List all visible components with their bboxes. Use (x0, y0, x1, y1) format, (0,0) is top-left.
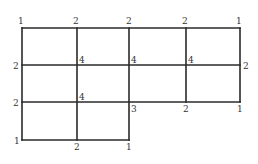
vertex-label: 2 (182, 17, 188, 26)
vertex-label: 2 (73, 17, 79, 26)
vertex-label: 3 (131, 105, 137, 114)
vertex-label: 4 (79, 56, 85, 65)
vertex-label: 2 (126, 17, 132, 26)
vertex-label: 2 (13, 62, 19, 71)
vertex-label: 1 (14, 137, 20, 146)
vertex-label: 2 (74, 143, 80, 152)
vertex-label: 1 (237, 105, 243, 114)
vertex-label: 1 (236, 17, 242, 26)
vertex-label: 4 (79, 93, 85, 102)
vertex-label: 2 (183, 105, 189, 114)
vertex-label: 2 (13, 99, 19, 108)
vertex-label: 4 (131, 56, 137, 65)
vertex-label: 1 (126, 143, 132, 152)
vertex-label: 1 (18, 17, 24, 26)
vertex-label: 2 (243, 62, 249, 71)
vertex-label: 4 (188, 56, 194, 65)
